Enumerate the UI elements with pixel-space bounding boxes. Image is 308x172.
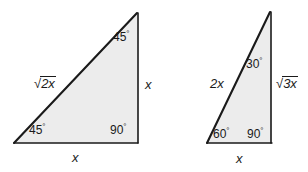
degree-symbol-icon: ° [226,126,229,135]
degree-symbol-icon: ° [42,122,45,131]
degree-symbol-icon: ° [260,126,263,135]
triangle-30-60-90-base-label: x [236,152,243,165]
triangle-30-60-90-hypotenuse-label: 2x [210,77,224,90]
angle-value: 45 [29,123,42,137]
square-root-icon: √3x [276,76,298,90]
degree-symbol-icon: ° [259,56,262,65]
degree-symbol-icon: ° [126,29,129,38]
triangle-45-45-90-angle-bottom-left: 45° [29,123,46,136]
triangle-45-45-90-base-label: x [72,151,79,164]
angle-value: 60 [213,127,226,141]
triangle-45-45-90-angle-apex: 45° [113,30,130,43]
triangle-45-45-90-vertical-label: x [145,78,152,91]
degree-symbol-icon: ° [123,122,126,131]
special-right-triangles-figure: 45° 45° 90° √2x x x 30° 60° 90° 2x √3x x [0,0,308,172]
angle-value: 30 [246,57,259,71]
triangle-30-60-90-angle-apex: 30° [246,57,263,70]
triangle-30-60-90-angle-bottom-right: 90° [247,127,264,140]
square-root-icon: √2x [34,76,56,90]
angle-value: 90 [247,127,260,141]
angle-value: 45 [113,30,126,44]
radicand-value: 3x [282,76,298,90]
triangle-30-60-90-angle-bottom-left: 60° [213,127,230,140]
triangle-30-60-90-vertical-label: √3x [276,76,298,90]
triangle-45-45-90-angle-bottom-right: 90° [110,123,127,136]
triangle-45-45-90-hypotenuse-label: √2x [34,76,56,90]
radicand-value: 2x [40,76,56,90]
angle-value: 90 [110,123,123,137]
